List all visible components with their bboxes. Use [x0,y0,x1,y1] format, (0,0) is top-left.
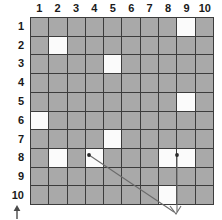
cell-r5-c6[interactable] [122,93,139,111]
cell-r9-c6[interactable] [122,168,139,186]
cell-r9-c1[interactable] [31,168,48,186]
cell-r10-c2[interactable] [49,186,66,204]
cell-r3-c5[interactable] [104,55,121,73]
cell-r8-c10[interactable] [196,149,213,167]
cell-r9-c8[interactable] [159,168,176,186]
cell-r10-c9[interactable] [177,186,194,204]
cell-r1-c8[interactable] [159,18,176,36]
cell-r10-c6[interactable] [122,186,139,204]
cell-r1-c6[interactable] [122,18,139,36]
cell-r1-c9[interactable] [177,18,194,36]
cell-r5-c10[interactable] [196,93,213,111]
cell-r9-c3[interactable] [68,168,85,186]
cell-grid[interactable] [30,17,214,205]
cell-r9-c5[interactable] [104,168,121,186]
cell-r7-c4[interactable] [86,130,103,148]
cell-r7-c5[interactable] [104,130,121,148]
cell-r4-c3[interactable] [68,74,85,92]
cell-r2-c7[interactable] [141,37,158,55]
cell-r9-c2[interactable] [49,168,66,186]
cell-r3-c1[interactable] [31,55,48,73]
cell-r4-c5[interactable] [104,74,121,92]
cell-r10-c8[interactable] [159,186,176,204]
cell-r2-c10[interactable] [196,37,213,55]
cell-r8-c4[interactable] [86,149,103,167]
cell-r2-c3[interactable] [68,37,85,55]
cell-r8-c6[interactable] [122,149,139,167]
cell-r8-c3[interactable] [68,149,85,167]
cell-r10-c7[interactable] [141,186,158,204]
cell-r2-c4[interactable] [86,37,103,55]
cell-r4-c6[interactable] [122,74,139,92]
cell-r5-c9[interactable] [177,93,194,111]
cell-r2-c6[interactable] [122,37,139,55]
cell-r3-c6[interactable] [122,55,139,73]
cell-r4-c4[interactable] [86,74,103,92]
cell-r5-c5[interactable] [104,93,121,111]
cell-r10-c10[interactable] [196,186,213,204]
cell-r6-c4[interactable] [86,112,103,130]
cell-r2-c9[interactable] [177,37,194,55]
cell-r2-c8[interactable] [159,37,176,55]
cell-r5-c8[interactable] [159,93,176,111]
cell-r8-c8[interactable] [159,149,176,167]
cell-r7-c6[interactable] [122,130,139,148]
cell-r2-c1[interactable] [31,37,48,55]
cell-r6-c7[interactable] [141,112,158,130]
cell-r6-c3[interactable] [68,112,85,130]
cell-r5-c1[interactable] [31,93,48,111]
cell-r2-c5[interactable] [104,37,121,55]
cell-r4-c1[interactable] [31,74,48,92]
cell-r3-c8[interactable] [159,55,176,73]
cell-r6-c10[interactable] [196,112,213,130]
cell-r9-c10[interactable] [196,168,213,186]
cell-r3-c2[interactable] [49,55,66,73]
cell-r1-c7[interactable] [141,18,158,36]
cell-r10-c3[interactable] [68,186,85,204]
cell-r6-c8[interactable] [159,112,176,130]
cell-r3-c9[interactable] [177,55,194,73]
cell-r6-c9[interactable] [177,112,194,130]
cell-r10-c4[interactable] [86,186,103,204]
cell-r7-c7[interactable] [141,130,158,148]
cell-r1-c10[interactable] [196,18,213,36]
cell-r7-c10[interactable] [196,130,213,148]
cell-r7-c9[interactable] [177,130,194,148]
cell-r4-c10[interactable] [196,74,213,92]
cell-r9-c9[interactable] [177,168,194,186]
cell-r3-c10[interactable] [196,55,213,73]
cell-r4-c9[interactable] [177,74,194,92]
cell-r7-c2[interactable] [49,130,66,148]
cell-r3-c7[interactable] [141,55,158,73]
cell-r8-c1[interactable] [31,149,48,167]
cell-r9-c7[interactable] [141,168,158,186]
cell-r6-c6[interactable] [122,112,139,130]
cell-r7-c8[interactable] [159,130,176,148]
cell-r5-c3[interactable] [68,93,85,111]
cell-r6-c2[interactable] [49,112,66,130]
cell-r3-c4[interactable] [86,55,103,73]
cell-r1-c4[interactable] [86,18,103,36]
cell-r4-c8[interactable] [159,74,176,92]
cell-r3-c3[interactable] [68,55,85,73]
cell-r10-c5[interactable] [104,186,121,204]
cell-r5-c7[interactable] [141,93,158,111]
cell-r1-c5[interactable] [104,18,121,36]
cell-r6-c1[interactable] [31,112,48,130]
cell-r7-c1[interactable] [31,130,48,148]
cell-r10-c1[interactable] [31,186,48,204]
cell-r1-c3[interactable] [68,18,85,36]
cell-r7-c3[interactable] [68,130,85,148]
cell-r9-c4[interactable] [86,168,103,186]
cell-r4-c2[interactable] [49,74,66,92]
cell-r4-c7[interactable] [141,74,158,92]
cell-r6-c5[interactable] [104,112,121,130]
cell-r1-c2[interactable] [49,18,66,36]
cell-r5-c4[interactable] [86,93,103,111]
cell-r2-c2[interactable] [49,37,66,55]
cell-r8-c7[interactable] [141,149,158,167]
cell-r8-c9[interactable] [177,149,194,167]
cell-r8-c2[interactable] [49,149,66,167]
cell-r1-c1[interactable] [31,18,48,36]
cell-r5-c2[interactable] [49,93,66,111]
